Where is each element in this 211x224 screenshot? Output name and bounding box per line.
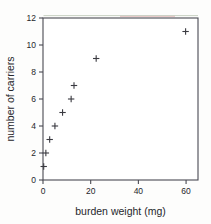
x-axis-ticks	[43, 180, 186, 184]
y-tick-label: 0	[31, 175, 36, 185]
y-tick-label: 8	[31, 67, 36, 77]
y-axis-title: number of carriers	[4, 56, 16, 141]
x-tick-label: 60	[181, 186, 191, 196]
y-axis-ticks	[39, 18, 43, 180]
x-tick-label: 40	[134, 186, 144, 196]
plot-area	[43, 18, 198, 180]
x-axis-title: burden weight (mg)	[75, 205, 165, 217]
figure-container: 0204060 024681012 burden weight (mg) num…	[0, 0, 211, 224]
plot-frame	[43, 16, 198, 180]
y-tick-label: 12	[27, 13, 37, 23]
x-tick-label: 20	[86, 186, 96, 196]
y-axis-tick-labels: 024681012	[27, 13, 37, 185]
x-tick-label: 0	[41, 186, 46, 196]
y-tick-label: 4	[31, 121, 36, 131]
x-axis-tick-labels: 0204060	[41, 186, 191, 196]
y-tick-label: 2	[31, 148, 36, 158]
scatter-plot: 0204060 024681012 burden weight (mg) num…	[0, 0, 211, 224]
y-tick-label: 10	[27, 40, 37, 50]
y-tick-label: 6	[31, 94, 36, 104]
